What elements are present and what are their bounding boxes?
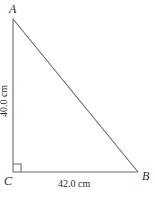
- vertex-label-c: C: [4, 175, 12, 187]
- measurement-label-side-ac: 40.0 cm: [0, 85, 9, 117]
- triangle-side-ab-hypotenuse: [13, 19, 138, 172]
- geometry-figure: A B C 40.0 cm 42.0 cm: [0, 0, 155, 198]
- measurement-label-side-cb: 42.0 cm: [58, 179, 90, 189]
- vertex-label-a: A: [9, 3, 16, 15]
- triangle-drawing: [0, 0, 155, 198]
- right-angle-marker-icon: [13, 164, 21, 172]
- vertex-label-b: B: [142, 170, 149, 182]
